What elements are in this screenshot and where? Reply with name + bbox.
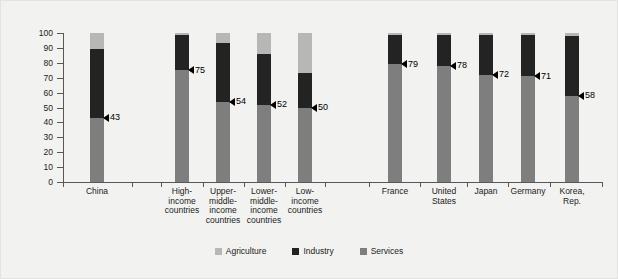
bar-segment-agriculture[interactable] bbox=[437, 33, 451, 34]
y-axis-tick-label: 40 bbox=[19, 118, 53, 126]
bar-segment-services[interactable] bbox=[257, 105, 271, 182]
bar-segment-services[interactable] bbox=[388, 64, 402, 182]
bar-segment-services[interactable] bbox=[175, 70, 189, 182]
y-axis-tick-label: 10 bbox=[19, 163, 53, 171]
bar-column[interactable] bbox=[298, 33, 312, 182]
bar-segment-agriculture[interactable] bbox=[565, 33, 579, 36]
bar-column[interactable] bbox=[437, 33, 451, 182]
x-axis-label-line: Germany bbox=[505, 187, 551, 197]
bar-segment-industry[interactable] bbox=[90, 49, 104, 118]
x-axis-line bbox=[63, 182, 603, 183]
bar-column[interactable] bbox=[388, 33, 402, 182]
x-axis-label-line: countries bbox=[282, 206, 328, 216]
x-axis-label-line: countries bbox=[159, 206, 205, 216]
chart-figure: % of GDP 1009080706050403020100 43755452… bbox=[0, 0, 618, 279]
x-axis-label-line: France bbox=[372, 187, 418, 197]
x-axis-label-line: countries bbox=[241, 216, 287, 226]
x-axis-label-line: Japan bbox=[463, 187, 509, 197]
x-axis-label-line: Rep. bbox=[549, 197, 595, 207]
bar-segment-services[interactable] bbox=[521, 76, 535, 182]
x-axis-label: Lower-middle-incomecountries bbox=[241, 187, 287, 225]
legend-item[interactable]: Agriculture bbox=[215, 247, 267, 256]
bar-segment-industry[interactable] bbox=[298, 73, 312, 107]
legend-item[interactable]: Industry bbox=[292, 247, 333, 256]
bar-segment-agriculture[interactable] bbox=[521, 33, 535, 34]
x-axis-label: UnitedStates bbox=[421, 187, 467, 206]
bar-segment-agriculture[interactable] bbox=[257, 33, 271, 54]
x-axis-tick bbox=[132, 182, 133, 187]
bar-segment-industry[interactable] bbox=[388, 35, 402, 65]
y-axis-tick-label: 20 bbox=[19, 148, 53, 156]
y-axis-tick-label: 80 bbox=[19, 59, 53, 67]
legend-label: Services bbox=[371, 247, 404, 256]
bar-segment-industry[interactable] bbox=[257, 54, 271, 105]
chart-legend: AgricultureIndustryServices bbox=[1, 247, 617, 256]
bar-segment-services[interactable] bbox=[437, 66, 451, 182]
legend-swatch bbox=[215, 248, 222, 255]
x-axis-label: Korea,Rep. bbox=[549, 187, 595, 206]
legend-swatch bbox=[292, 248, 299, 255]
legend-item[interactable]: Services bbox=[360, 247, 404, 256]
bar-segment-industry[interactable] bbox=[216, 43, 230, 101]
legend-swatch bbox=[360, 248, 367, 255]
bar-column[interactable] bbox=[521, 33, 535, 182]
x-axis-label-line: States bbox=[421, 197, 467, 207]
legend-label: Agriculture bbox=[226, 247, 267, 256]
bar-segment-industry[interactable] bbox=[175, 35, 189, 71]
bar-segment-services[interactable] bbox=[216, 102, 230, 182]
bar-segment-industry[interactable] bbox=[479, 35, 493, 75]
bar-segment-services[interactable] bbox=[90, 118, 104, 182]
bar-segment-industry[interactable] bbox=[521, 35, 535, 77]
x-axis-label: High-incomecountries bbox=[159, 187, 205, 216]
bar-segment-industry[interactable] bbox=[565, 36, 579, 96]
bar-segment-agriculture[interactable] bbox=[388, 33, 402, 34]
bar-segment-services[interactable] bbox=[565, 96, 579, 182]
y-axis-tick-label: 50 bbox=[19, 104, 53, 112]
x-axis-tick bbox=[602, 182, 603, 187]
bar-column[interactable] bbox=[175, 33, 189, 182]
x-axis-label-line: China bbox=[74, 187, 120, 197]
bar-segment-industry[interactable] bbox=[437, 35, 451, 66]
x-axis-label: China bbox=[74, 187, 120, 197]
x-axis-tick bbox=[369, 182, 370, 187]
y-axis-tick-label: 0 bbox=[19, 178, 53, 186]
bar-segment-agriculture[interactable] bbox=[479, 33, 493, 34]
y-axis-tick-label: 60 bbox=[19, 89, 53, 97]
bar-column[interactable] bbox=[479, 33, 493, 182]
bar-segment-agriculture[interactable] bbox=[175, 33, 189, 34]
y-axis-tick-label: 100 bbox=[19, 29, 53, 37]
bar-segment-services[interactable] bbox=[298, 108, 312, 183]
bar-segment-agriculture[interactable] bbox=[298, 33, 312, 73]
x-axis-label: Japan bbox=[463, 187, 509, 197]
bar-column[interactable] bbox=[257, 33, 271, 182]
x-axis-label: Upper-middle-incomecountries bbox=[200, 187, 246, 225]
y-axis-tick-label: 30 bbox=[19, 133, 53, 141]
bar-segment-services[interactable] bbox=[479, 75, 493, 182]
bar-column[interactable] bbox=[90, 33, 104, 182]
y-axis-tick-label: 70 bbox=[19, 74, 53, 82]
plot-area bbox=[63, 33, 603, 182]
bar-column[interactable] bbox=[216, 33, 230, 182]
bar-segment-agriculture[interactable] bbox=[90, 33, 104, 49]
x-axis-label: Germany bbox=[505, 187, 551, 197]
x-axis-tick bbox=[63, 182, 64, 187]
legend-label: Industry bbox=[303, 247, 333, 256]
x-axis-label-line: High-income bbox=[159, 187, 205, 206]
y-axis-tick-label: 90 bbox=[19, 44, 53, 52]
bar-column[interactable] bbox=[565, 33, 579, 182]
x-axis-label-line: countries bbox=[200, 216, 246, 226]
x-axis-label: France bbox=[372, 187, 418, 197]
x-axis-label: Low-incomecountries bbox=[282, 187, 328, 216]
bar-segment-agriculture[interactable] bbox=[216, 33, 230, 43]
